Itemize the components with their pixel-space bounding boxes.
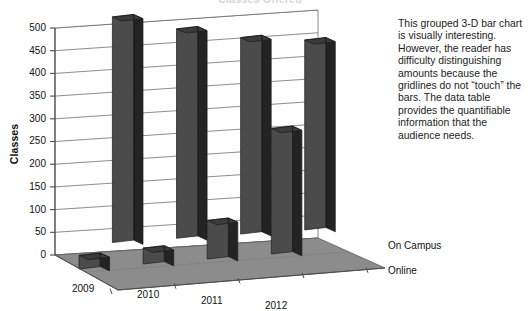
y-tick-label-300: 300 xyxy=(20,114,46,124)
y-axis xyxy=(50,28,55,255)
three-d-bar-chart xyxy=(0,0,400,311)
bar-on-campus-2010[interactable] xyxy=(177,27,208,241)
y-tick-label-200: 200 xyxy=(20,159,46,169)
y-tick-label-0: 0 xyxy=(20,250,46,260)
y-tick-label-50: 50 xyxy=(20,227,46,237)
bar-on-campus-2009[interactable] xyxy=(112,15,143,245)
series-label-on-campus: On Campus xyxy=(388,241,441,251)
y-axis-title: Classes xyxy=(8,109,20,179)
commentary-text: This grouped 3-D bar chart is visually i… xyxy=(398,18,530,142)
y-tick-label-150: 150 xyxy=(20,182,46,192)
y-tick-label-400: 400 xyxy=(20,68,46,78)
y-tick-label-350: 350 xyxy=(20,91,46,101)
x-category-label-2009: 2009 xyxy=(72,284,94,294)
y-tick-label-450: 450 xyxy=(20,46,46,56)
bar-online-2011[interactable] xyxy=(207,218,238,261)
y-tick-label-500: 500 xyxy=(20,23,46,33)
bar-on-campus-2012[interactable] xyxy=(305,38,336,232)
x-category-label-2012: 2012 xyxy=(265,301,287,311)
series-label-online: Online xyxy=(388,266,417,276)
bar-online-2012[interactable] xyxy=(271,126,302,256)
y-tick-label-100: 100 xyxy=(20,205,46,215)
x-category-label-2011: 2011 xyxy=(201,296,223,306)
y-tick-label-250: 250 xyxy=(20,136,46,146)
screenshot-root: Classes Offered xyxy=(0,0,532,311)
x-category-label-2010: 2010 xyxy=(137,290,159,300)
bar-on-campus-2011[interactable] xyxy=(241,35,272,236)
